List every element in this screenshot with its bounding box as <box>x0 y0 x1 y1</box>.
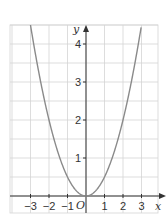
y-axis-label: y <box>72 23 80 36</box>
origin-label: O <box>76 199 85 212</box>
svg-text:−2: −2 <box>43 200 56 212</box>
svg-text:3: 3 <box>138 200 144 212</box>
svg-text:1: 1 <box>101 200 107 212</box>
axes <box>10 25 166 213</box>
svg-text:4: 4 <box>75 38 81 50</box>
svg-text:−3: −3 <box>24 200 37 212</box>
grid <box>10 25 158 213</box>
x-axis-label: x <box>155 200 162 213</box>
tick-labels: −3−2−11231234 <box>24 38 144 212</box>
svg-text:−1: −1 <box>61 200 74 212</box>
svg-text:2: 2 <box>75 114 81 126</box>
svg-text:2: 2 <box>120 200 126 212</box>
svg-text:1: 1 <box>75 152 81 164</box>
svg-text:3: 3 <box>75 76 81 88</box>
parabola-chart: −3−2−11231234 x y O <box>0 0 167 222</box>
